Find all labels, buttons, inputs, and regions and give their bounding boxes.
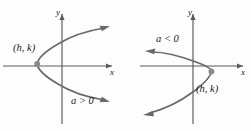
y-axis-right [190,14,195,124]
panel-right [140,14,243,124]
condition-label-a-positive: a > 0 [71,96,94,107]
vertex-dot-right [209,69,215,75]
y-axis-label-left: y [56,8,60,17]
x-axis-label-left: x [110,68,114,77]
panel-left [3,14,112,124]
parabola-figure: (h, k) a > 0 y x (h, k) a < 0 y x [0,0,251,131]
parabola-curve-left [37,26,110,102]
x-axis-label-right: x [241,68,245,77]
x-axis-right [140,63,243,68]
vertex-dot-left [34,61,40,67]
x-axis-left [3,63,112,68]
vertex-label-left: (h, k) [13,43,35,54]
y-axis-label-right: y [188,8,192,17]
parabola-diagram-canvas [0,0,251,131]
condition-label-a-negative: a < 0 [156,34,179,45]
vertex-label-right: (h, k) [196,84,218,95]
y-axis-left [59,14,64,124]
